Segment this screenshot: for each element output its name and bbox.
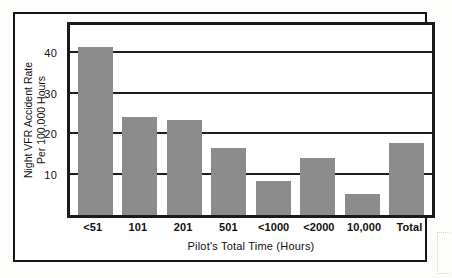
bar-2000 [300,158,335,215]
bar-1000 [256,181,291,215]
x-tick-label-2000: <2000 [296,221,341,239]
bar-101 [122,117,157,215]
plot-frame [67,22,435,218]
x-tick-label-10000: 10,000 [342,221,387,239]
bar-slot [207,25,252,215]
x-axis-title: Pilot's Total Time (Hours) [67,240,435,252]
x-tick-label-101: 101 [115,221,160,239]
y-axis-tick-labels: 10203040 [0,22,63,218]
bar-201 [167,120,202,215]
page-background: Night VFR Accident Rate Per 100,000 Hour… [0,0,452,278]
bar-slot [251,25,296,215]
bar-501 [211,148,246,215]
bar-Total [389,143,424,215]
scan-artifact [437,232,450,274]
bar-10000 [345,194,380,215]
bar-slot [340,25,385,215]
x-tick-label-51: <51 [70,221,115,239]
y-tick-label-40: 40 [44,47,57,59]
x-axis-tick-labels: <51101201501<1000<200010,000Total [67,221,435,239]
bar-51 [78,47,113,215]
x-tick-label-501: 501 [206,221,251,239]
y-tick-label-30: 30 [44,88,57,100]
bar-slot [162,25,207,215]
y-tick-label-20: 20 [44,128,57,140]
x-tick-label-1000: <1000 [251,221,296,239]
bar-slot [73,25,118,215]
y-tick-label-10: 10 [44,169,57,181]
plot-area [70,25,432,215]
x-tick-label-Total: Total [387,221,432,239]
bar-slot [118,25,163,215]
bar-series [70,25,432,215]
x-tick-label-201: 201 [161,221,206,239]
bar-slot [385,25,430,215]
bar-slot [296,25,341,215]
